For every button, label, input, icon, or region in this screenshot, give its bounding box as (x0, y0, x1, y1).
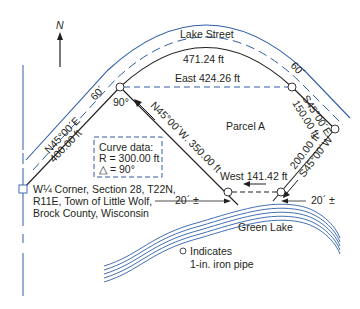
arc-length: 471.24 ft (183, 53, 224, 65)
legend-line-2: 1-in. iron pipe (190, 258, 254, 270)
parcel-angle: 90° (113, 96, 129, 108)
curve-delta: △ = 90° (99, 163, 135, 175)
sw-direction-arrow (283, 180, 298, 198)
corner-line-2: R11E, Town of Little Wolf, (33, 195, 152, 207)
east-chord-label: East 424.26 ft (175, 72, 240, 84)
north-label: N (56, 19, 64, 31)
street-width-right: 60´ (289, 59, 308, 78)
west-label: West 141.42 ft (220, 170, 288, 182)
north-arrow: N (56, 19, 64, 67)
corner-line-1: W¼ Corner, Section 28, T22N, (33, 183, 176, 195)
section-corner-icon (19, 185, 27, 193)
iron-pipe-icon (288, 83, 296, 91)
offset-left-label: 20´ ± (175, 194, 199, 206)
lake-name: Green Lake (238, 221, 293, 233)
offset-right-arrow (281, 199, 306, 204)
corner-line-3: Brock County, Wisconsin (33, 207, 149, 219)
legend-line-1: Indicates (190, 245, 232, 257)
iron-pipe-icon (277, 188, 285, 196)
legend-iron-pipe-icon (180, 248, 186, 254)
street-width-left: 60´ (88, 83, 107, 102)
iron-pipe-icon (224, 188, 232, 196)
iron-pipe-icon (116, 83, 124, 91)
parcel-name: Parcel A (226, 120, 265, 132)
offset-right-label: 20´ ± (311, 194, 335, 206)
street-name: Lake Street (180, 28, 234, 40)
survey-plat: N (0, 0, 360, 309)
arrowhead-icon (57, 32, 63, 40)
